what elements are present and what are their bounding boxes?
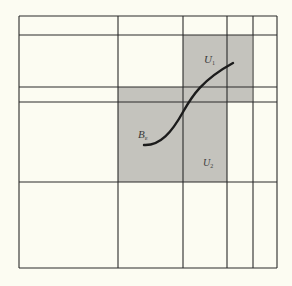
diagram-canvas: U1 Bε U2 (0, 0, 292, 286)
covering-diagram: U1 Bε U2 (0, 0, 292, 286)
